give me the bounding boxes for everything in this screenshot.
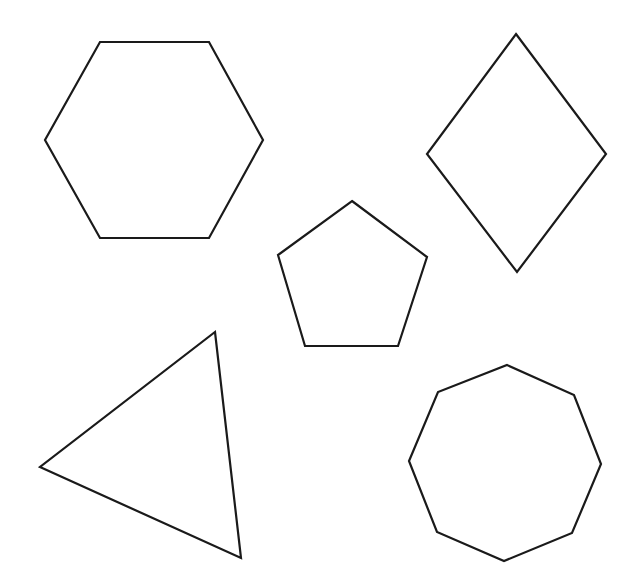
shapes-canvas (0, 0, 636, 588)
triangle-shape (40, 332, 241, 558)
pentagon-shape (278, 201, 427, 346)
octagon-shape (409, 365, 601, 561)
rhombus-shape (427, 34, 606, 272)
hexagon-shape (45, 42, 263, 238)
